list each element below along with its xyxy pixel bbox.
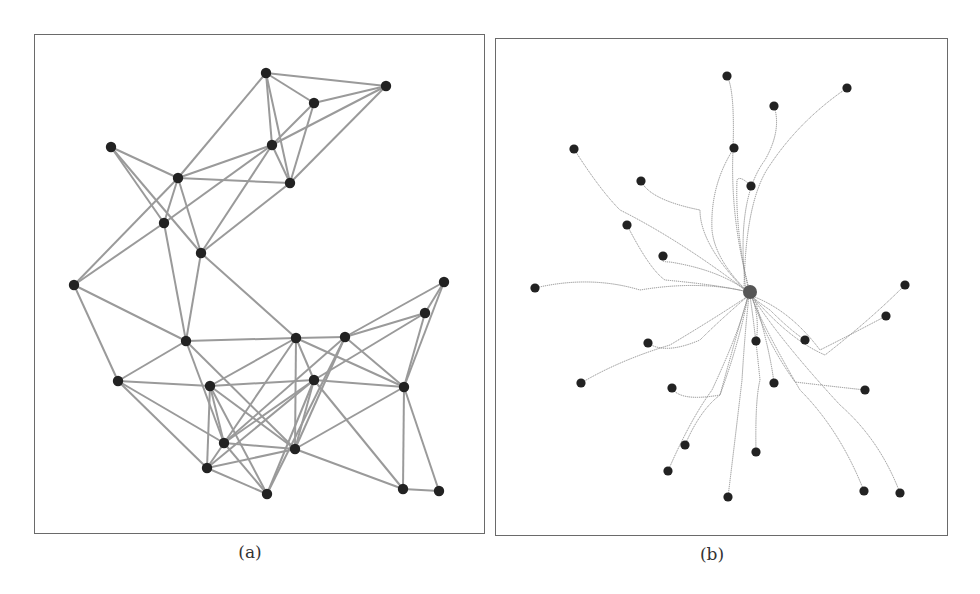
caption-b: (b) bbox=[700, 544, 724, 564]
panel-a-frame bbox=[34, 34, 485, 534]
panel-b-frame bbox=[495, 38, 948, 536]
caption-a: (a) bbox=[238, 542, 261, 562]
